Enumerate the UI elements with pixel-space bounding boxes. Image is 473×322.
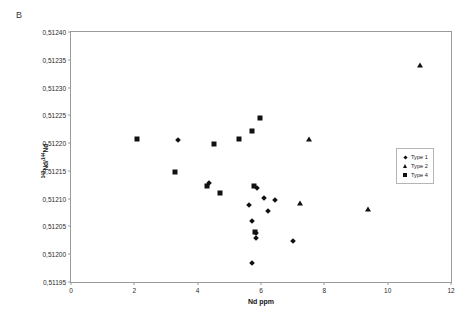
data-point-type-1 xyxy=(261,195,267,201)
x-axis-tick-label: 4 xyxy=(196,287,200,294)
data-point-type-1 xyxy=(253,235,259,241)
data-point-type-2 xyxy=(417,63,423,68)
plot-area: 0,511950,512000,512050,512100,512150,512… xyxy=(71,32,451,282)
legend-item-type-4: Type 4 xyxy=(401,171,428,179)
y-axis-tick-label: 0,51220 xyxy=(43,140,67,147)
legend-label: Type 1 xyxy=(411,154,428,160)
legend-marker-square-icon xyxy=(401,173,409,177)
x-axis-tick-label: 0 xyxy=(69,287,73,294)
legend-item-type-2: Type 2 xyxy=(401,162,428,170)
legend-marker-diamond-icon xyxy=(401,156,409,159)
y-axis-tick-label: 0,51240 xyxy=(43,29,67,36)
legend-marker-triangle-icon xyxy=(401,164,409,168)
x-axis-tick-mark xyxy=(387,282,388,285)
x-axis-tick-label: 8 xyxy=(323,287,327,294)
y-axis-title-superscript-144: 144 xyxy=(41,152,46,160)
x-axis-tick-label: 6 xyxy=(259,287,263,294)
y-axis-tick-label: 0,51195 xyxy=(43,279,66,286)
y-axis-tick-mark xyxy=(68,87,71,88)
y-axis-tick-label: 0,51210 xyxy=(43,195,67,202)
data-point-type-2 xyxy=(306,137,312,142)
data-point-type-4 xyxy=(172,170,177,175)
data-point-type-1 xyxy=(272,197,278,203)
x-axis-tick-mark xyxy=(134,282,135,285)
data-point-type-4 xyxy=(252,230,257,235)
data-point-type-1 xyxy=(249,260,255,266)
x-axis-tick-mark xyxy=(324,282,325,285)
legend-item-type-1: Type 1 xyxy=(401,153,428,161)
y-axis-tick-label: 0,51230 xyxy=(43,84,67,91)
legend-label: Type 4 xyxy=(411,172,428,178)
y-axis-tick-label: 0,51235 xyxy=(43,56,67,63)
data-point-type-1 xyxy=(175,137,181,143)
x-axis-tick-label: 10 xyxy=(384,287,391,294)
data-point-type-4 xyxy=(258,116,263,121)
x-axis-tick-mark xyxy=(197,282,198,285)
data-point-type-4 xyxy=(252,184,257,189)
data-point-type-4 xyxy=(250,128,255,133)
square-icon xyxy=(403,173,407,177)
x-axis-title: Nd ppm xyxy=(70,298,452,305)
legend-label: Type 2 xyxy=(411,163,428,169)
y-axis-tick-mark xyxy=(68,32,71,33)
data-point-type-1 xyxy=(265,208,271,214)
triangle-icon xyxy=(403,164,407,168)
data-point-type-2 xyxy=(297,201,303,206)
y-axis-tick-mark xyxy=(68,59,71,60)
y-axis-tick-mark xyxy=(68,254,71,255)
x-axis-tick-mark xyxy=(71,282,72,285)
data-point-type-4 xyxy=(218,191,223,196)
y-axis-tick-label: 0,51205 xyxy=(43,223,67,230)
data-point-type-1 xyxy=(246,202,252,208)
y-axis-tick-label: 0,51200 xyxy=(43,251,67,258)
chart-legend: Type 1Type 2Type 4 xyxy=(396,148,434,184)
scatter-chart: 0,511950,512000,512050,512100,512150,512… xyxy=(70,31,452,283)
data-point-type-2 xyxy=(365,206,371,211)
y-axis-tick-label: 0,51215 xyxy=(43,167,67,174)
x-axis-tick-mark xyxy=(261,282,262,285)
y-axis-tick-mark xyxy=(68,143,71,144)
diamond-icon xyxy=(403,155,407,159)
x-axis-tick-mark xyxy=(451,282,452,285)
y-axis-tick-label: 0,51225 xyxy=(43,112,67,119)
x-axis-tick-label: 12 xyxy=(447,287,454,294)
data-point-type-4 xyxy=(212,141,217,146)
y-axis-tick-mark xyxy=(68,170,71,171)
y-axis-tick-mark xyxy=(68,198,71,199)
data-point-type-4 xyxy=(134,137,139,142)
x-axis-tick-label: 2 xyxy=(133,287,137,294)
y-axis-tick-mark xyxy=(68,226,71,227)
y-axis-tick-mark xyxy=(68,115,71,116)
data-point-type-1 xyxy=(249,218,255,224)
data-point-type-4 xyxy=(204,184,209,189)
data-point-type-1 xyxy=(290,239,296,245)
panel-label: B xyxy=(16,10,23,20)
data-point-type-4 xyxy=(236,137,241,142)
